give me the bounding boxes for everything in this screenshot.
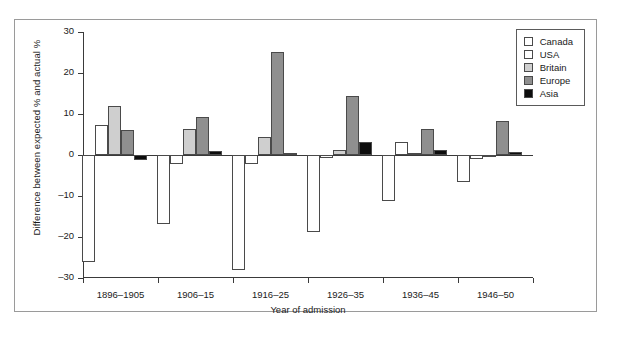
bar-usa-3 bbox=[320, 155, 333, 158]
y-axis-tick-label: 0 bbox=[69, 148, 74, 159]
x-axis-tick bbox=[308, 278, 309, 283]
legend-item-usa[interactable]: USA bbox=[524, 48, 573, 61]
y-axis-tick-label: 20 bbox=[63, 66, 74, 77]
bar-usa-1 bbox=[170, 155, 183, 164]
y-axis-tick-label: –20 bbox=[58, 230, 74, 241]
legend-item-europe[interactable]: Europe bbox=[524, 74, 573, 87]
legend-swatch-usa-icon bbox=[524, 50, 533, 59]
bar-europe-2 bbox=[271, 52, 284, 155]
bar-canada-2 bbox=[232, 155, 245, 270]
bar-britain-2 bbox=[258, 137, 271, 155]
bar-asia-1 bbox=[209, 151, 222, 155]
x-axis-tick bbox=[533, 278, 534, 283]
x-axis-tick bbox=[158, 278, 159, 283]
plot-area: 3020100–10–20–30 1896–19051906–151916–25… bbox=[83, 32, 533, 278]
bar-britain-5 bbox=[483, 155, 496, 157]
y-axis-title: Difference between expected % and actual… bbox=[31, 13, 42, 263]
x-axis-tick bbox=[233, 278, 234, 283]
bar-britain-4 bbox=[408, 153, 421, 155]
bar-canada-1 bbox=[157, 155, 170, 224]
legend: CanadaUSABritainEuropeAsia bbox=[516, 29, 585, 106]
bar-usa-5 bbox=[470, 155, 483, 159]
legend-item-britain[interactable]: Britain bbox=[524, 61, 573, 74]
bar-canada-0 bbox=[82, 155, 95, 262]
bar-canada-3 bbox=[307, 155, 320, 232]
bar-europe-3 bbox=[346, 96, 359, 155]
legend-label: Europe bbox=[540, 75, 571, 86]
bar-britain-1 bbox=[183, 129, 196, 155]
bar-usa-2 bbox=[245, 155, 258, 164]
y-axis-tick-label: 30 bbox=[63, 25, 74, 36]
bar-usa-0 bbox=[95, 125, 108, 155]
bar-canada-5 bbox=[457, 155, 470, 182]
x-axis-title: Year of admission bbox=[83, 304, 533, 315]
y-axis-tick-label: 10 bbox=[63, 107, 74, 118]
x-axis-category-label: 1946–50 bbox=[477, 289, 514, 300]
bar-britain-3 bbox=[333, 150, 346, 155]
legend-swatch-britain-icon bbox=[524, 63, 533, 72]
figure-frame: Difference between expected % and actual… bbox=[14, 19, 597, 312]
y-axis-tick-label: –10 bbox=[58, 189, 74, 200]
bar-asia-3 bbox=[359, 142, 372, 155]
bar-europe-0 bbox=[121, 130, 134, 155]
legend-item-canada[interactable]: Canada bbox=[524, 35, 573, 48]
legend-item-asia[interactable]: Asia bbox=[524, 87, 573, 100]
legend-swatch-asia-icon bbox=[524, 89, 533, 98]
bar-asia-0 bbox=[134, 155, 147, 160]
bar-europe-5 bbox=[496, 121, 509, 155]
x-axis-category-label: 1936–45 bbox=[402, 289, 439, 300]
y-axis-tick: 30 bbox=[78, 32, 83, 33]
bar-asia-4 bbox=[434, 150, 447, 155]
x-axis-tick bbox=[383, 278, 384, 283]
x-axis-tick bbox=[458, 278, 459, 283]
bar-britain-0 bbox=[108, 106, 121, 155]
legend-swatch-canada-icon bbox=[524, 37, 533, 46]
x-axis-category-label: 1906–15 bbox=[177, 289, 214, 300]
y-axis-tick-label: –30 bbox=[58, 271, 74, 282]
y-axis-tick: 20 bbox=[78, 73, 83, 74]
bar-canada-4 bbox=[382, 155, 395, 201]
legend-label: USA bbox=[540, 49, 560, 60]
x-axis-tick bbox=[83, 278, 84, 283]
x-axis-category-label: 1926–35 bbox=[327, 289, 364, 300]
bar-asia-5 bbox=[509, 152, 522, 155]
bar-usa-4 bbox=[395, 142, 408, 155]
bar-europe-1 bbox=[196, 117, 209, 155]
legend-label: Asia bbox=[540, 88, 558, 99]
legend-swatch-europe-icon bbox=[524, 76, 533, 85]
bar-europe-4 bbox=[421, 129, 434, 155]
legend-label: Britain bbox=[540, 62, 567, 73]
legend-label: Canada bbox=[540, 36, 573, 47]
y-axis-tick: 10 bbox=[78, 114, 83, 115]
x-axis-category-label: 1896–1905 bbox=[97, 289, 145, 300]
bar-asia-2 bbox=[284, 153, 297, 155]
x-axis-category-label: 1916–25 bbox=[252, 289, 289, 300]
